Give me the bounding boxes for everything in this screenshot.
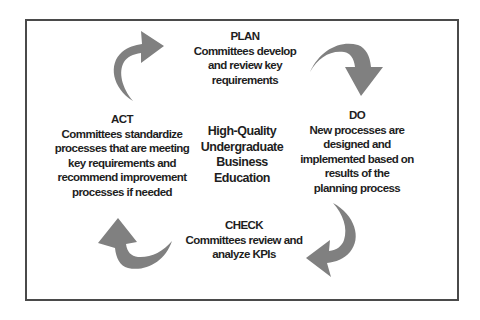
- curved-arrow-right-icon: [114, 31, 164, 101]
- curved-arrow-down-icon: [310, 44, 383, 96]
- check-stage: CHECK Committees review and analyze KPIs: [186, 218, 303, 262]
- plan-text-line: requirements: [194, 73, 297, 88]
- check-text-line: Committees review and: [186, 233, 303, 248]
- plan-text-line: Committees develop: [194, 44, 297, 59]
- center-text-line: High-Quality: [201, 124, 283, 140]
- check-text-line: analyze KPIs: [186, 247, 303, 262]
- center-text-line: Education: [201, 171, 283, 187]
- plan-stage: PLAN Committees develop and review key r…: [194, 29, 297, 87]
- plan-title: PLAN: [194, 29, 297, 44]
- do-stage: DO New processes are designed and implem…: [300, 108, 414, 196]
- center-text-line: Undergraduate: [201, 140, 283, 156]
- act-text-line: key requirements and: [55, 156, 190, 171]
- do-text-line: New processes are: [300, 123, 414, 138]
- plan-text-line: and review key: [194, 58, 297, 73]
- curved-arrow-left-icon: [306, 203, 356, 277]
- curved-arrow-up-icon: [98, 218, 172, 269]
- act-text-line: Committees standardize: [55, 127, 190, 142]
- do-title: DO: [300, 108, 414, 123]
- act-text-line: recommend improvement: [55, 170, 190, 185]
- center-text-line: Business: [201, 155, 283, 171]
- do-text-line: implemented based on: [300, 152, 414, 167]
- act-text-line: processes that are meeting: [55, 141, 190, 156]
- do-text-line: results of the: [300, 166, 414, 181]
- do-text-line: planning process: [300, 181, 414, 196]
- check-title: CHECK: [186, 218, 303, 233]
- do-text-line: designed and: [300, 137, 414, 152]
- act-text-line: processes if needed: [55, 185, 190, 200]
- center-goal: High-Quality Undergraduate Business Educ…: [201, 124, 283, 186]
- act-stage: ACT Committees standardize processes tha…: [55, 112, 190, 200]
- act-title: ACT: [55, 112, 190, 127]
